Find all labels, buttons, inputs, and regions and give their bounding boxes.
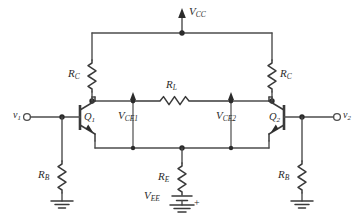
vcc-supply-arrow	[178, 8, 186, 33]
node-dot-vce1-bottom	[131, 146, 135, 150]
resistor-rc-left	[88, 60, 96, 101]
label-vee: VEE	[144, 190, 160, 203]
label-vee-polarity: +	[194, 198, 200, 208]
resistor-rb-right	[298, 161, 306, 201]
label-rc-left: RC	[68, 68, 80, 81]
label-re: RE	[158, 171, 169, 184]
node-dot-vce2-bottom	[229, 146, 233, 150]
ground-right	[291, 201, 313, 208]
label-v1: v1	[13, 110, 21, 122]
vee-battery	[172, 196, 192, 205]
circuit-diagram: VCC RC RC RL Q1 Q2 VCE1 VCE2 v1 v2 RB RB…	[0, 0, 363, 219]
resistor-rc-right	[268, 60, 276, 101]
resistor-rl	[133, 97, 231, 105]
terminal-v2	[334, 114, 341, 121]
input-left-network	[24, 114, 65, 161]
top-supply-rail	[92, 30, 272, 60]
terminal-v1	[24, 114, 31, 121]
label-v2: v2	[343, 110, 351, 122]
node-dot-vce2-top	[229, 99, 234, 104]
label-q1: Q1	[84, 112, 95, 124]
label-vce1: VCE1	[118, 110, 138, 123]
label-q2: Q2	[269, 112, 280, 124]
node-dot-vce1-top	[131, 99, 136, 104]
resistor-rb-left	[58, 161, 66, 201]
label-rl: RL	[166, 79, 177, 92]
label-rb-right: RB	[278, 169, 289, 182]
resistor-re	[178, 148, 186, 195]
node-dot-vcc	[179, 30, 184, 35]
label-vcc: VCC	[189, 6, 206, 19]
label-rb-left: RB	[38, 169, 49, 182]
ground-center	[170, 205, 194, 212]
label-rc-right: RC	[280, 68, 292, 81]
label-vce2: VCE2	[216, 110, 236, 123]
input-right-network	[299, 114, 340, 161]
ground-left	[51, 201, 73, 208]
schematic-canvas	[0, 0, 363, 219]
